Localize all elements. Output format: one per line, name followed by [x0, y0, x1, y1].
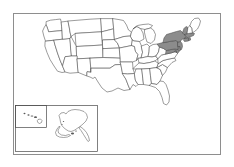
state-wyoming[interactable]: [76, 32, 103, 47]
us-map-svg: [0, 0, 234, 167]
alaska-island-a: [63, 121, 64, 122]
hawaii-inset-box: [16, 106, 47, 128]
alaska-island-b: [61, 124, 62, 125]
hawaii-island-kauai: [24, 113, 26, 114]
state-michigan-lower[interactable]: [145, 28, 156, 44]
alaska-panhandle: [79, 127, 90, 142]
inset-group: [16, 106, 98, 152]
state-rhode-island[interactable]: [189, 38, 191, 41]
hawaii-island-hawaii: [37, 119, 42, 124]
alaska-island-kodiak: [71, 133, 74, 135]
state-kansas[interactable]: [103, 48, 120, 58]
hawaii-island-maui: [34, 116, 37, 118]
alaska-island-c: [75, 130, 77, 131]
hawaii-island-oahu: [27, 114, 29, 115]
state-district-of-columbia[interactable]: [175, 51, 177, 53]
alaska-landmass[interactable]: [56, 110, 90, 142]
hawaii-island-molokai: [31, 116, 34, 117]
us-map-figure: United States map with highlighted state…: [0, 0, 234, 167]
state-arkansas[interactable]: [120, 62, 134, 74]
hawaii-islands[interactable]: [24, 113, 43, 124]
state-florida[interactable]: [150, 81, 170, 105]
alaska-mainland: [59, 110, 88, 132]
state-colorado[interactable]: [76, 45, 103, 59]
state-arizona[interactable]: [63, 56, 79, 73]
state-washington[interactable]: [46, 19, 62, 32]
contiguous-states-group: [43, 18, 201, 105]
